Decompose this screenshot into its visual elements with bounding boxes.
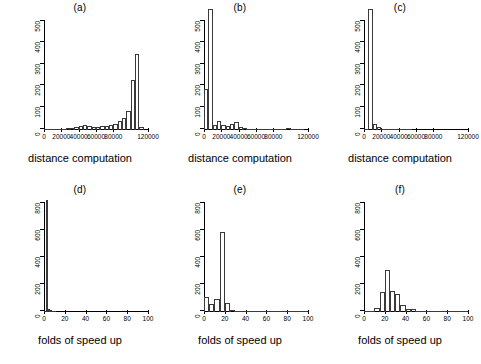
panel-title-a: (a) (0, 2, 160, 13)
y-tick-label-d-2: 400 (35, 256, 42, 268)
x-tick-label-b-3: 60000 (247, 133, 265, 140)
y-tick-label-c-0: 0 (355, 128, 362, 140)
x-tick-label-c-0: 0 (362, 133, 366, 140)
y-tick-label-b-5: 500 (195, 20, 202, 32)
x-tick-d-5 (148, 310, 149, 314)
y-tick-label-f-0: 0 (355, 310, 362, 322)
panel-c: (c)0100200300400500020000400006000080000… (320, 0, 480, 182)
panel-d: (d)0200400600800020406080100folds of spe… (0, 182, 160, 364)
x-tick-label-c-5: 120000 (457, 133, 479, 140)
y-tick-label-b-3: 300 (195, 63, 202, 75)
y-tick-label-d-1: 200 (35, 283, 42, 295)
plot-area-d: 0200400600800020406080100 (44, 202, 148, 312)
bars-d (44, 202, 148, 312)
y-tick-label-a-5: 500 (35, 20, 42, 32)
x-axis-label-c: distance computation (320, 152, 480, 164)
bars-a (44, 20, 148, 130)
plot-area-a: 0100200300400500020000400006000080000120… (44, 20, 148, 130)
y-tick-label-e-2: 400 (195, 256, 202, 268)
histogram-bar (46, 200, 48, 312)
histogram-figure: (a)0100200300400500020000400006000080000… (0, 0, 481, 364)
x-tick-c-5 (468, 128, 469, 132)
x-axis-label-d: folds of speed up (0, 334, 160, 346)
x-tick-label-e-2: 40 (242, 315, 249, 322)
y-tick-label-d-3: 600 (35, 229, 42, 241)
x-tick-b-5 (308, 128, 309, 132)
x-tick-label-c-2: 40000 (390, 133, 408, 140)
y-tick-label-f-2: 400 (355, 256, 362, 268)
y-tick-label-b-0: 0 (195, 128, 202, 140)
x-tick-e-5 (308, 310, 309, 314)
bars-c (364, 20, 468, 130)
histogram-bar (54, 311, 56, 312)
y-tick-label-a-3: 300 (35, 63, 42, 75)
x-tick-label-f-1: 20 (381, 315, 388, 322)
y-tick-label-f-1: 200 (355, 283, 362, 295)
x-tick-label-e-5: 100 (303, 315, 314, 322)
x-tick-label-b-1: 20000 (212, 133, 230, 140)
panel-title-e: (e) (160, 184, 320, 195)
y-tick-label-a-4: 400 (35, 41, 42, 53)
x-tick-label-e-3: 60 (263, 315, 270, 322)
x-tick-label-f-5: 100 (463, 315, 474, 322)
x-tick-label-a-1: 20000 (52, 133, 70, 140)
x-tick-label-c-3: 60000 (407, 133, 425, 140)
bars-f (364, 202, 468, 312)
y-tick-label-d-4: 800 (35, 202, 42, 214)
bars-b (204, 20, 308, 130)
x-tick-label-f-4: 80 (444, 315, 451, 322)
x-tick-label-c-4: 80000 (424, 133, 442, 140)
x-tick-label-f-0: 0 (362, 315, 366, 322)
x-tick-label-d-3: 60 (103, 315, 110, 322)
y-tick-label-a-0: 0 (35, 128, 42, 140)
y-tick-label-e-1: 200 (195, 283, 202, 295)
x-tick-label-a-5: 120000 (137, 133, 159, 140)
x-tick-label-d-4: 80 (124, 315, 131, 322)
panel-b: (b)0100200300400500020000400006000080000… (160, 0, 320, 182)
x-tick-label-e-0: 0 (202, 315, 206, 322)
x-tick-label-b-2: 40000 (230, 133, 248, 140)
histogram-bar (139, 127, 143, 130)
histogram-bar (220, 232, 225, 312)
y-tick-label-d-0: 0 (35, 310, 42, 322)
x-tick-label-e-1: 20 (221, 315, 228, 322)
panel-title-b: (b) (160, 2, 320, 13)
plot-area-e: 0200400600800020406080100 (204, 202, 308, 312)
histogram-bar (303, 311, 308, 312)
plot-area-b: 0100200300400500020000400006000080000120… (204, 20, 308, 130)
panel-f: (f)0200400600800020406080100folds of spe… (320, 182, 480, 364)
y-tick-label-c-4: 400 (355, 41, 362, 53)
x-tick-label-a-2: 40000 (70, 133, 88, 140)
x-tick-f-5 (468, 310, 469, 314)
histogram-bar (368, 9, 372, 130)
y-tick-label-e-0: 0 (195, 310, 202, 322)
y-tick-label-c-2: 200 (355, 85, 362, 97)
y-tick-label-b-1: 100 (195, 106, 202, 118)
x-tick-label-b-5: 120000 (297, 133, 319, 140)
panel-e: (e)0200400600800020406080100folds of spe… (160, 182, 320, 364)
y-tick-label-a-1: 100 (35, 106, 42, 118)
y-tick-label-c-3: 300 (355, 63, 362, 75)
x-tick-label-c-1: 20000 (372, 133, 390, 140)
x-tick-label-a-4: 80000 (104, 133, 122, 140)
x-tick-a-5 (148, 128, 149, 132)
y-tick-label-e-4: 800 (195, 202, 202, 214)
y-tick-label-b-2: 200 (195, 85, 202, 97)
histogram-bar (407, 129, 411, 130)
y-tick-label-f-3: 600 (355, 229, 362, 241)
histogram-bar (299, 129, 303, 130)
bars-e (204, 202, 308, 312)
x-axis-label-e: folds of speed up (160, 334, 320, 346)
plot-area-c: 0100200300400500020000400006000080000120… (364, 20, 468, 130)
x-tick-label-a-0: 0 (42, 133, 46, 140)
panel-a: (a)0100200300400500020000400006000080000… (0, 0, 160, 182)
y-tick-label-e-3: 600 (195, 229, 202, 241)
histogram-bar (463, 311, 468, 312)
x-tick-label-b-0: 0 (202, 133, 206, 140)
y-tick-label-c-1: 100 (355, 106, 362, 118)
x-tick-label-d-1: 20 (61, 315, 68, 322)
x-tick-label-f-2: 40 (402, 315, 409, 322)
y-tick-label-c-5: 500 (355, 20, 362, 32)
x-tick-label-b-4: 80000 (264, 133, 282, 140)
panel-title-f: (f) (320, 184, 480, 195)
